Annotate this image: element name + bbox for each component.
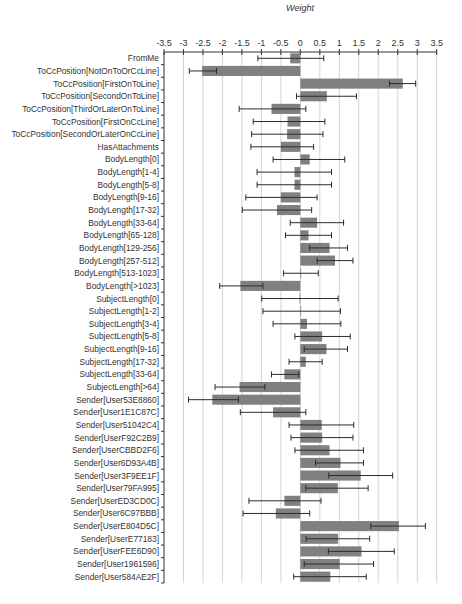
- category-label: SubjectLength[17-32]: [79, 357, 159, 367]
- category-labels: FromMeToCcPosition[NotOnToOrCcLine]ToCcP…: [11, 53, 159, 581]
- category-label: Sender[User1E1C87C]: [73, 407, 159, 417]
- category-label: BodyLength[65-128]: [84, 230, 159, 240]
- x-tick-label: -2.5: [195, 38, 211, 48]
- category-label: Sender[UserF92C2B9]: [74, 433, 159, 443]
- category-label: SubjectLength[1-2]: [89, 306, 159, 316]
- chart-canvas: Weight -3.5-3-2.5-2-1.5-1-0.500.511.522.…: [0, 0, 462, 604]
- bar: [300, 79, 402, 89]
- x-tick-label: 1: [337, 38, 342, 48]
- bars: [202, 53, 403, 581]
- category-label: ToCcPosition[NotOnToOrCcLine]: [37, 66, 159, 76]
- category-label: Sender[User584AE2F]: [75, 572, 159, 582]
- category-label: Sender[UserE804D5C]: [73, 521, 159, 531]
- gridlines: [183, 52, 436, 583]
- category-label: Sender[User3F9EE1F]: [74, 471, 159, 481]
- category-label: ToCcPosition[FirstOnToLine]: [53, 79, 159, 89]
- category-label: Sender[UserFEE6D90]: [73, 546, 159, 556]
- category-label: BodyLength[5-8]: [98, 180, 159, 190]
- category-label: Sender[UserED3CD0C]: [71, 496, 159, 506]
- category-label: SubjectLength[9-16]: [84, 344, 159, 354]
- category-label: ToCcPosition[ThirdOrLaterOnToLine]: [22, 104, 159, 114]
- category-label: Sender[UserCBBD2F6]: [72, 445, 159, 455]
- x-tick-label: -3.5: [156, 38, 172, 48]
- category-label: BodyLength[33-64]: [88, 218, 159, 228]
- x-tick-label: 3: [415, 38, 420, 48]
- category-label: ToCcPosition[SecondOnToLine]: [41, 91, 159, 101]
- weight-bar-chart: Weight -3.5-3-2.5-2-1.5-1-0.500.511.522.…: [0, 0, 462, 604]
- category-label: BodyLength[0]: [105, 154, 159, 164]
- category-label: SubjectLength[>64]: [87, 382, 159, 392]
- category-label: Sender[User6D93A4B]: [74, 458, 159, 468]
- x-tick-label: -2: [218, 38, 226, 48]
- category-label: SubjectLength[33-64]: [79, 369, 159, 379]
- category-label: Sender[UserE77183]: [81, 534, 159, 544]
- category-label: HasAttachments: [98, 142, 159, 152]
- category-label: Sender[User6C97BBB]: [73, 508, 159, 518]
- x-tick-label: 0: [298, 38, 303, 48]
- category-label: BodyLength[129-256]: [79, 243, 159, 253]
- category-label: FromMe: [128, 53, 160, 63]
- category-label: Sender[User51042C4]: [76, 420, 159, 430]
- category-label: ToCcPosition[SecondOrLaterOnCcLine]: [11, 129, 159, 139]
- x-tick-label: -3: [179, 38, 187, 48]
- x-tick-label: 2.5: [391, 38, 404, 48]
- category-label: ToCcPosition[FirstOnCcLine]: [52, 117, 159, 127]
- category-label: BodyLength[513-1023]: [74, 268, 159, 278]
- error-bars: [189, 55, 426, 579]
- category-label: SubjectLength[0]: [96, 294, 159, 304]
- x-axis-title: Weight: [286, 3, 314, 13]
- category-label: BodyLength[257-512]: [79, 256, 159, 266]
- category-label: SubjectLength[3-4]: [89, 319, 159, 329]
- category-label: Sender[User79FA995]: [76, 483, 159, 493]
- x-tick-label: -0.5: [273, 38, 289, 48]
- category-label: Sender[User53E8860]: [76, 395, 159, 405]
- x-tick-label: 3.5: [430, 38, 443, 48]
- category-label: SubjectLength[5-8]: [89, 331, 159, 341]
- x-tick-label: -1: [257, 38, 265, 48]
- category-label: BodyLength[1-4]: [98, 167, 159, 177]
- x-tick-label: 0.5: [314, 38, 327, 48]
- category-label: BodyLength[9-16]: [93, 192, 159, 202]
- category-label: BodyLength[>1023]: [86, 281, 159, 291]
- category-label: Sender[User1961596]: [77, 559, 159, 569]
- category-label: BodyLength[17-32]: [88, 205, 159, 215]
- x-tick-label: -1.5: [234, 38, 250, 48]
- x-tick-label: 2: [376, 38, 381, 48]
- x-tick-label: 1.5: [353, 38, 366, 48]
